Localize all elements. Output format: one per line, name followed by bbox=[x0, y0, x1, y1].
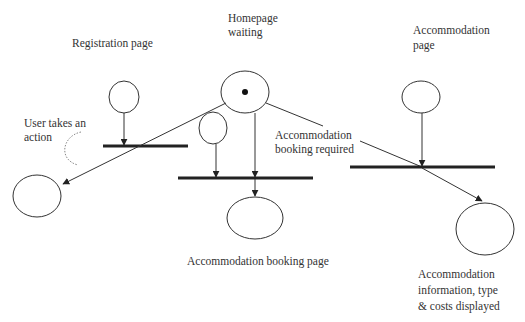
user-action-label-line2: action bbox=[24, 130, 52, 144]
homepage-to-registered-arc bbox=[63, 103, 226, 184]
booking-page-label: Accommodation booking page bbox=[187, 254, 329, 268]
user-action-dotted-arc bbox=[65, 132, 81, 165]
info-displayed-place bbox=[456, 203, 514, 255]
token-icon bbox=[242, 89, 248, 95]
homepage-to-accommodation-arc-a bbox=[266, 103, 323, 126]
homepage-label-line2: waiting bbox=[228, 25, 263, 39]
info-label-line3: & costs displayed bbox=[418, 299, 500, 313]
user-action-label-line1: User takes an bbox=[24, 116, 86, 130]
registered-place bbox=[13, 175, 61, 217]
petri-net-diagram: Registration page Homepage waiting Accom… bbox=[0, 0, 525, 322]
booking-required-label-line1: Accommodation bbox=[275, 128, 352, 142]
registration-place bbox=[109, 81, 139, 113]
info-label-line1: Accommodation bbox=[418, 267, 495, 281]
user-action-place bbox=[199, 112, 227, 144]
booking-page-place bbox=[227, 197, 283, 239]
homepage-label-line1: Homepage bbox=[228, 11, 278, 25]
accommodation-page-label-line2: page bbox=[413, 38, 435, 52]
accommodation-transition-out-arc bbox=[422, 168, 482, 201]
accommodation-page-place bbox=[402, 81, 440, 113]
accommodation-page-label-line1: Accommodation bbox=[413, 23, 490, 37]
booking-required-label-line2: booking required bbox=[275, 142, 354, 156]
info-label-line2: information, type bbox=[418, 283, 498, 297]
homepage-to-accommodation-arc-b bbox=[360, 141, 422, 167]
registration-label: Registration page bbox=[72, 36, 153, 50]
